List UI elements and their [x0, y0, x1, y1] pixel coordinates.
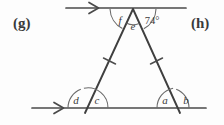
angle-label-f: f: [118, 14, 123, 26]
angle-label-d: d: [73, 94, 79, 106]
angle-label-b: b: [183, 94, 189, 106]
geometry-diagram: f e 74° d c a b: [0, 0, 224, 125]
angle-label-a: a: [162, 94, 168, 106]
figure-page: (g) (h) f: [0, 0, 224, 125]
angle-label-74-degrees: 74°: [145, 15, 160, 26]
angle-label-e: e: [131, 20, 136, 32]
angle-label-c: c: [95, 94, 100, 106]
